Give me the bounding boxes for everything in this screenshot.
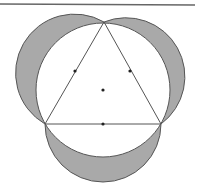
- lune-right: [104, 18, 185, 124]
- lune-left: [16, 14, 104, 124]
- midpoint-bottom-dot: [101, 122, 104, 125]
- midpoint-right-dot: [128, 69, 131, 72]
- lune-bottom: [45, 124, 161, 182]
- lunes-diagram: [0, 0, 202, 190]
- top-rule: [0, 4, 195, 5]
- midpoint-left-dot: [73, 69, 76, 72]
- center-dot: [101, 88, 104, 91]
